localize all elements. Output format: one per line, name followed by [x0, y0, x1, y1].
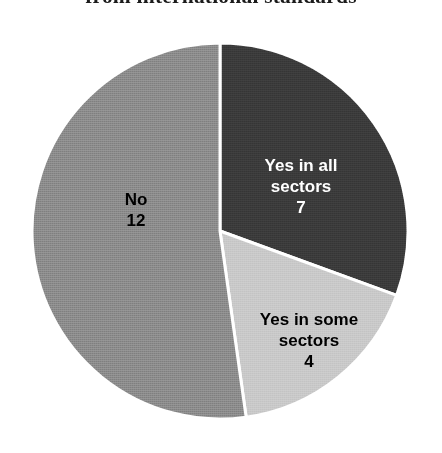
- page-title: from international standards: [0, 0, 442, 9]
- pie-svg: [31, 42, 409, 420]
- pie-slice-group: [32, 43, 408, 419]
- pie-chart: [31, 42, 409, 420]
- pie-slice-no: [32, 43, 246, 419]
- chart-title-clip: from international standards: [0, 0, 442, 15]
- pie-chart-figure: from international standards Yes in all …: [0, 0, 442, 453]
